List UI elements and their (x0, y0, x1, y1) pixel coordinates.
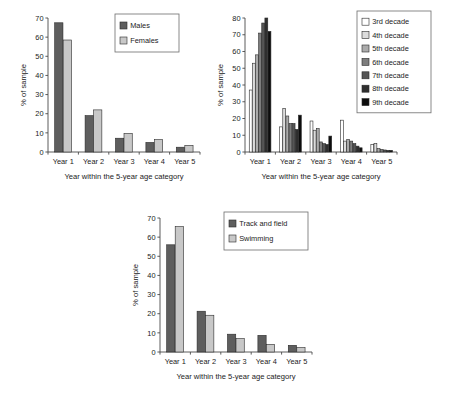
y-tick-label: 30 (147, 290, 155, 299)
x-category-label: Year 3 (225, 357, 246, 366)
x-category-label: Year 4 (341, 157, 362, 166)
legend-label-3rd-decade: 3rd decade (372, 17, 409, 26)
legend-swatch-8th-decade (362, 85, 369, 92)
x-category-label: Year 4 (256, 357, 277, 366)
bar-year-2-5th-decade (286, 116, 289, 152)
bar-year-5-7th-decade (383, 150, 386, 152)
bar-year-3-9th-decade (329, 136, 332, 152)
bar-year-5-4th-decade (374, 144, 377, 152)
x-category-label: Year 1 (165, 357, 186, 366)
chart-panel-sports: 010203040506070% of sampleYear 1Year 2Ye… (112, 196, 362, 396)
y-tick-label: 70 (232, 30, 240, 39)
y-tick-label: 40 (232, 81, 240, 90)
bar-year-4-swimming (266, 344, 274, 352)
figure-page: 010203040506070% of sampleYear 1Year 2Ye… (0, 0, 465, 396)
legend-swatch-track-and-field (229, 220, 236, 227)
x-category-label: Year 2 (83, 157, 104, 166)
y-tick-label: 10 (232, 131, 240, 140)
bar-year-5-5th-decade (377, 149, 380, 152)
bar-year-2-7th-decade (292, 124, 295, 152)
bar-year-1-9th-decade (268, 31, 271, 152)
legend-label-5th-decade: 5th decade (372, 44, 409, 53)
x-axis-title: Year within the 5-year age category (64, 172, 183, 181)
y-tick-label: 50 (35, 52, 43, 61)
legend-swatch-4th-decade (362, 32, 369, 39)
bar-year-1-8th-decade (265, 18, 268, 152)
bar-year-5-9th-decade (390, 150, 393, 152)
y-tick-label: 20 (232, 114, 240, 123)
bar-year-3-6th-decade (319, 142, 322, 152)
y-tick-label: 60 (232, 47, 240, 56)
bar-chart-gender: 010203040506070% of sampleYear 1Year 2Ye… (0, 0, 232, 198)
x-category-label: Year 5 (371, 157, 392, 166)
y-axis-title: % of sample (131, 264, 140, 306)
legend-label-swimming: Swimming (239, 234, 273, 243)
bar-year-2-4th-decade (283, 108, 286, 152)
legend-swatch-males (120, 22, 127, 29)
legend-swatch-6th-decade (362, 58, 369, 65)
y-tick-label: 0 (236, 148, 240, 157)
bar-year-5-females (185, 145, 193, 152)
x-category-label: Year 3 (310, 157, 331, 166)
bar-year-2-6th-decade (289, 124, 292, 152)
bar-year-3-8th-decade (326, 144, 329, 152)
legend-label-males: Males (130, 21, 150, 30)
bar-year-2-9th-decade (298, 115, 301, 152)
bar-year-3-track-and-field (227, 334, 235, 352)
bar-year-2-swimming (206, 315, 214, 352)
bar-year-1-6th-decade (259, 33, 262, 152)
y-tick-label: 50 (147, 252, 155, 261)
legend-swatch-3rd-decade (362, 18, 369, 25)
x-category-label: Year 5 (174, 157, 195, 166)
x-category-label: Year 1 (250, 157, 271, 166)
bar-year-4-males (146, 142, 154, 152)
bar-year-2-8th-decade (295, 129, 298, 152)
x-category-label: Year 1 (53, 157, 74, 166)
x-category-label: Year 5 (286, 357, 307, 366)
bar-year-4-7th-decade (353, 144, 356, 152)
bar-year-2-males (85, 116, 93, 152)
legend-box (115, 14, 179, 52)
bar-year-5-8th-decade (386, 150, 389, 152)
legend-swatch-5th-decade (362, 45, 369, 52)
x-category-label: Year 2 (280, 157, 301, 166)
y-tick-label: 10 (35, 129, 43, 138)
bar-year-4-5th-decade (347, 139, 350, 152)
bar-year-5-6th-decade (380, 149, 383, 152)
legend-swatch-7th-decade (362, 72, 369, 79)
y-tick-label: 70 (147, 214, 155, 223)
bar-year-5-track-and-field (288, 345, 296, 352)
x-axis-title: Year within the 5-year age category (176, 372, 295, 381)
legend-label-females: Females (130, 36, 159, 45)
legend-label-9th-decade: 9th decade (372, 98, 409, 107)
y-axis-title: % of sample (216, 64, 225, 106)
y-tick-label: 60 (147, 233, 155, 242)
y-tick-label: 20 (147, 309, 155, 318)
bar-year-3-5th-decade (316, 129, 319, 152)
y-tick-label: 10 (147, 329, 155, 338)
bar-year-4-females (154, 140, 162, 152)
bar-year-2-track-and-field (197, 311, 205, 352)
bar-year-3-7th-decade (323, 144, 326, 152)
bar-year-4-6th-decade (350, 141, 353, 152)
y-tick-label: 40 (35, 71, 43, 80)
legend-label-8th-decade: 8th decade (372, 84, 409, 93)
bar-year-1-4th-decade (252, 63, 255, 152)
bar-year-5-males (176, 147, 184, 152)
chart-panel-males-females: 010203040506070% of sampleYear 1Year 2Ye… (0, 0, 232, 198)
x-axis-title: Year within the 5-year age category (261, 172, 380, 181)
bar-year-3-swimming (236, 339, 244, 352)
bar-year-4-8th-decade (356, 146, 359, 152)
bar-year-1-swimming (175, 227, 183, 352)
bar-year-3-4th-decade (313, 130, 316, 152)
bar-year-3-3rd-decade (310, 121, 313, 152)
y-tick-label: 0 (39, 148, 43, 157)
bar-year-4-track-and-field (258, 335, 266, 352)
legend-label-track-and-field: Track and field (239, 219, 287, 228)
bar-year-1-7th-decade (262, 23, 265, 152)
x-category-label: Year 4 (144, 157, 165, 166)
legend-box (224, 212, 308, 250)
bar-chart-decades: 01020304050607080% of sampleYear 1Year 2… (205, 0, 465, 198)
y-tick-label: 0 (151, 348, 155, 357)
legend-label-6th-decade: 6th decade (372, 58, 409, 67)
